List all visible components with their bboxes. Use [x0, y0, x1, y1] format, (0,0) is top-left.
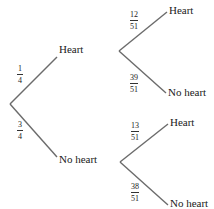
- branch-2b-heart: [120, 124, 168, 162]
- denominator: 4: [18, 132, 22, 141]
- denominator: 51: [130, 22, 138, 31]
- branch-2a-no-heart: [119, 51, 166, 93]
- fraction-bar: [131, 131, 139, 132]
- denominator: 51: [130, 85, 138, 94]
- numerator: 3: [18, 120, 22, 129]
- denominator: 51: [131, 194, 139, 203]
- numerator: 12: [130, 10, 138, 19]
- branch-2b-no-heart: [120, 162, 168, 205]
- node-label-no-heart: No heart: [170, 197, 208, 209]
- fraction-bar: [131, 192, 139, 193]
- numerator: 1: [18, 64, 22, 73]
- branch-2a-heart: [119, 12, 167, 51]
- numerator: 13: [131, 121, 139, 130]
- node-label-no-heart: No heart: [59, 153, 97, 165]
- node-label-heart: Heart: [59, 43, 83, 55]
- denominator: 4: [18, 76, 22, 85]
- node-label-no-heart: No heart: [168, 86, 206, 98]
- probability-fraction: 1 4: [17, 64, 23, 85]
- numerator: 38: [131, 182, 139, 191]
- denominator: 51: [131, 133, 139, 142]
- probability-fraction: 3 4: [17, 120, 23, 141]
- fraction-bar: [130, 20, 138, 21]
- numerator: 39: [130, 73, 138, 82]
- node-label-heart: Heart: [169, 4, 193, 16]
- node-label-heart: Heart: [170, 116, 194, 128]
- probability-fraction: 12 51: [130, 10, 138, 31]
- probability-fraction: 38 51: [131, 182, 139, 203]
- fraction-bar: [17, 74, 23, 75]
- probability-fraction: 39 51: [130, 73, 138, 94]
- fraction-bar: [17, 130, 23, 131]
- probability-fraction: 13 51: [131, 121, 139, 142]
- fraction-bar: [130, 83, 138, 84]
- tree-lines: [0, 0, 214, 209]
